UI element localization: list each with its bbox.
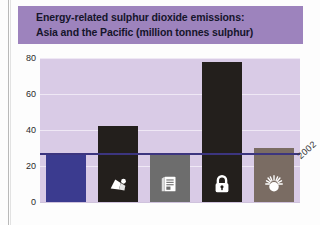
coal-icon	[107, 173, 129, 195]
y-tick-label: 40	[2, 125, 36, 135]
bar-oil-intensive[interactable]	[150, 153, 191, 202]
y-tick-label: 20	[2, 161, 36, 171]
sun-icon	[263, 173, 285, 195]
gridline	[40, 130, 300, 131]
bar-business-as-usual[interactable]	[202, 62, 243, 202]
bar-sustainable[interactable]	[254, 148, 295, 202]
plot-wrapper: 020406080 2002	[0, 48, 320, 225]
gridline	[40, 58, 300, 59]
plot-area	[40, 58, 300, 202]
bar-2002[interactable]	[46, 153, 87, 202]
y-axis-tick-labels: 020406080	[0, 58, 36, 202]
reference-line-2002	[40, 153, 300, 155]
y-tick-label: 80	[2, 53, 36, 63]
oil-barrel-icon	[159, 173, 181, 195]
x-axis-baseline	[40, 202, 300, 203]
chart-title-line-1: Energy-related sulphur dioxide emissions…	[36, 10, 303, 25]
chart-title-banner: Energy-related sulphur dioxide emissions…	[18, 6, 303, 44]
gridline	[40, 94, 300, 95]
chart-figure: Energy-related sulphur dioxide emissions…	[0, 0, 320, 225]
bar-coal-intensive[interactable]	[98, 126, 139, 202]
chart-title-line-2: Asia and the Pacific (million tonnes sul…	[36, 25, 303, 40]
y-tick-label: 60	[2, 89, 36, 99]
y-tick-label: 0	[2, 197, 36, 207]
padlock-icon	[211, 173, 233, 195]
